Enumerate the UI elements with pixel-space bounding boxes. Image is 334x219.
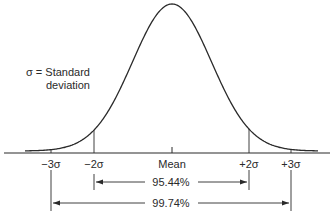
range3-arrowhead-right-icon — [282, 201, 289, 206]
range3-label: 99.74% — [152, 197, 190, 209]
label-minus3-sigma: −3σ — [41, 158, 61, 170]
range3-arrowhead-left-icon — [53, 201, 60, 206]
label-minus2-sigma: −2σ — [84, 158, 104, 170]
range2-label: 95.44% — [152, 176, 190, 188]
label-plus3-sigma: +3σ — [281, 158, 301, 170]
label-plus2-sigma: +2σ — [239, 158, 259, 170]
range2-arrowhead-left-icon — [96, 180, 103, 185]
legend-line1: σ = Standard — [26, 66, 90, 78]
label-mean: Mean — [158, 158, 186, 170]
normal-distribution-diagram: σ = Standard deviation −3σ −2σ Mean +2σ … — [0, 0, 334, 219]
range2-arrowhead-right-icon — [240, 180, 247, 185]
legend-line2: deviation — [46, 79, 90, 91]
